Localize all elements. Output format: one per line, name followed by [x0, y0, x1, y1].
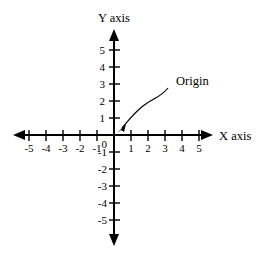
- y-tick-label-3: 3: [100, 78, 106, 90]
- x-tick-label--2: -2: [75, 142, 84, 154]
- x-tick-label--4: -4: [41, 142, 51, 154]
- y-tick-label--1: -1: [98, 146, 107, 158]
- x-tick-label-3: 3: [162, 142, 168, 154]
- y-tick-label--3: -3: [98, 180, 108, 192]
- y-axis-title: Y axis: [98, 11, 130, 25]
- y-tick-label-4: 4: [100, 61, 106, 73]
- y-tick-label-5: 5: [100, 44, 106, 56]
- y-tick-label-2: 2: [100, 95, 106, 107]
- diagram-background: [0, 0, 262, 255]
- x-tick-label--3: -3: [58, 142, 68, 154]
- y-tick-label--5: -5: [98, 214, 108, 226]
- x-tick-label-1: 1: [128, 142, 134, 154]
- x-tick-label-2: 2: [145, 142, 151, 154]
- x-axis-title: X axis: [219, 129, 251, 143]
- y-tick-label--2: -2: [98, 163, 107, 175]
- x-tick-label-5: 5: [196, 142, 202, 154]
- origin-annotation-label: Origin: [176, 74, 209, 88]
- x-tick-label--5: -5: [24, 142, 34, 154]
- coordinate-plane-diagram: -5 -4 -3 -2 -1 1 2 3 4 5 0 5 4 3 2 1 -1 …: [0, 0, 262, 255]
- y-tick-label-1: 1: [100, 112, 106, 124]
- x-tick-label-4: 4: [179, 142, 185, 154]
- y-tick-label--4: -4: [98, 197, 108, 209]
